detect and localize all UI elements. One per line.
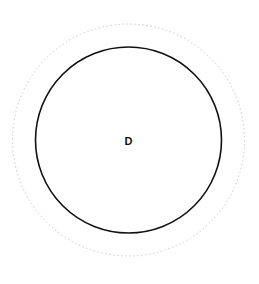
node-label: D: [125, 135, 133, 147]
diagram-canvas: D: [0, 0, 259, 284]
